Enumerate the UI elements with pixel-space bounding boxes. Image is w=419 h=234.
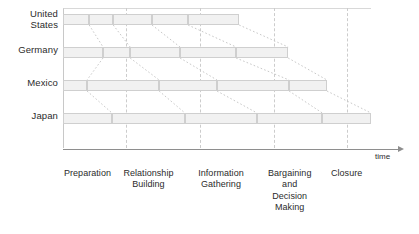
phase-segment xyxy=(257,113,322,124)
phase-segment xyxy=(89,14,113,25)
plot-area xyxy=(63,8,371,148)
phase-segment xyxy=(112,113,185,124)
row-label-united-states: United States xyxy=(0,8,58,30)
phase-guideline-2 xyxy=(200,8,201,148)
phase-segment xyxy=(87,80,159,91)
phase-segment xyxy=(289,80,327,91)
phase-segment xyxy=(236,47,288,58)
category-axis-labels: United States Germany Mexico Japan xyxy=(0,0,58,234)
phase-guideline-3 xyxy=(274,8,275,148)
phase-segment xyxy=(217,80,289,91)
phase-segment xyxy=(152,14,188,25)
time-axis-label: time xyxy=(375,152,390,161)
phase-segment xyxy=(159,80,217,91)
phase-segment xyxy=(185,113,257,124)
phase-guideline-4 xyxy=(347,8,348,148)
negotiation-phases-chart: United States Germany Mexico Japan time … xyxy=(0,0,419,234)
phase-segment xyxy=(130,47,180,58)
phase-label-5: Closure xyxy=(302,168,392,179)
row-label-text: United States xyxy=(30,8,58,30)
row-label-japan: Japan xyxy=(0,110,58,121)
phase-segment xyxy=(113,14,152,25)
time-axis-line xyxy=(63,149,401,150)
phase-segment xyxy=(63,80,87,91)
phase-label-line: and xyxy=(245,179,335,190)
phase-segment xyxy=(63,14,89,25)
phase-label-line: Closure xyxy=(302,168,392,179)
row-label-text: Japan xyxy=(32,110,58,121)
row-label-text: Mexico xyxy=(27,77,58,88)
phase-guideline-1 xyxy=(126,8,127,148)
row-label-germany: Germany xyxy=(0,44,58,55)
phase-segment xyxy=(103,47,130,58)
time-axis-arrow-icon xyxy=(398,146,404,152)
phase-segment xyxy=(322,113,371,124)
phase-segment xyxy=(188,14,239,25)
row-label-text: Germany xyxy=(18,44,58,55)
phase-segment xyxy=(63,47,103,58)
phase-label-line: Decision xyxy=(245,191,335,202)
phase-segment xyxy=(63,113,112,124)
phase-label-line: Making xyxy=(245,202,335,213)
phase-segment xyxy=(180,47,236,58)
row-label-mexico: Mexico xyxy=(0,77,58,88)
